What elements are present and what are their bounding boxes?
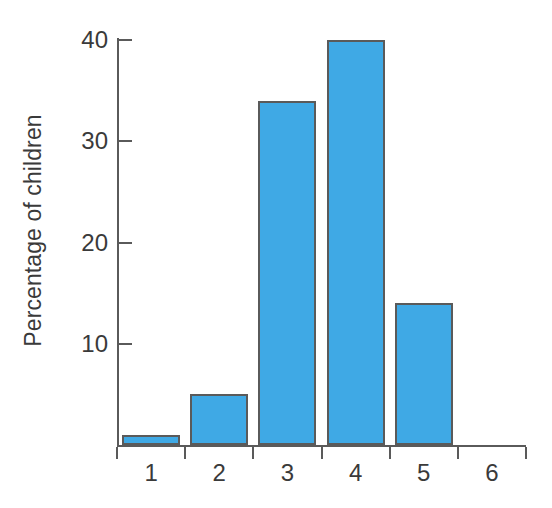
x-axis-tick [184, 447, 186, 459]
bar [327, 40, 385, 445]
y-axis-tick-label: 10 [50, 330, 108, 356]
y-axis-tick-label: 30 [50, 127, 108, 153]
bar [395, 303, 453, 445]
y-axis-tick [119, 242, 132, 244]
y-axis-tick-label-text: 20 [50, 229, 108, 257]
y-axis-title-text: Percentage of children [20, 114, 47, 346]
x-axis-tick [116, 447, 118, 459]
x-axis-tick-label: 5 [404, 459, 444, 487]
x-axis-tick-label: 6 [472, 459, 512, 487]
y-axis-tick-label-text: 40 [50, 26, 108, 54]
x-axis-tick [389, 447, 391, 459]
bar-chart-figure: Percentage of children 10203040 123456 [0, 0, 552, 508]
bar [122, 435, 180, 445]
y-axis-tick-label: 20 [50, 229, 108, 255]
y-axis-tick [119, 39, 132, 41]
x-axis-tick-label: 3 [267, 459, 307, 487]
y-axis-title: Percentage of children [14, 0, 52, 460]
x-axis-tick [321, 447, 323, 459]
y-axis-tick [119, 343, 132, 345]
y-axis-tick-label: 40 [50, 26, 108, 52]
y-axis-tick [119, 140, 132, 142]
x-axis-tick-label: 4 [336, 459, 376, 487]
y-axis-tick-label-text: 10 [50, 330, 108, 358]
bar [190, 394, 248, 445]
x-axis-tick [252, 447, 254, 459]
x-axis-tick [457, 447, 459, 459]
bar [258, 101, 316, 445]
y-axis-tick-label-text: 30 [50, 127, 108, 155]
x-axis-tick-label: 2 [199, 459, 239, 487]
x-axis-tick-label: 1 [131, 459, 171, 487]
x-axis-tick [525, 447, 527, 459]
